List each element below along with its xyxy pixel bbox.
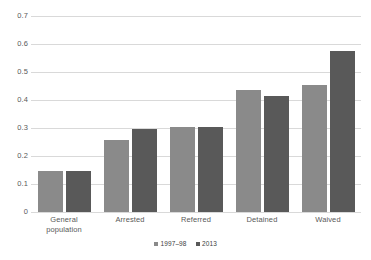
bar <box>170 127 195 212</box>
legend-label: 1997–98 <box>161 241 187 248</box>
bar <box>302 85 327 212</box>
x-axis-category-label: Waived <box>295 215 361 235</box>
y-axis-tick-label: 0.3 <box>2 124 28 132</box>
gridline <box>31 212 361 213</box>
y-axis-tick-label: 0 <box>2 208 28 216</box>
x-axis-category-label: Arrested <box>97 215 163 235</box>
legend-item[interactable]: 1997–98 <box>154 241 187 248</box>
bar <box>66 171 91 212</box>
bar <box>198 127 223 212</box>
bar-chart: 00.10.20.30.40.50.60.7 General populatio… <box>0 0 371 260</box>
legend-swatch-icon <box>196 242 200 246</box>
y-axis-tick-label: 0.4 <box>2 96 28 104</box>
bar <box>104 140 129 212</box>
y-axis-tick-label: 0.6 <box>2 40 28 48</box>
x-axis-category-label: Referred <box>163 215 229 235</box>
bar-group <box>97 16 163 212</box>
bar-group <box>163 16 229 212</box>
legend-item[interactable]: 2013 <box>196 241 217 248</box>
y-axis-tick-label: 0.2 <box>2 152 28 160</box>
bar-group <box>229 16 295 212</box>
bar <box>236 90 261 212</box>
legend-swatch-icon <box>154 242 158 246</box>
bar-groups <box>31 16 361 212</box>
x-axis-category-label: Detained <box>229 215 295 235</box>
y-axis-tick-label: 0.7 <box>2 12 28 20</box>
x-axis-category-label: General population <box>31 215 97 235</box>
bar <box>132 129 157 212</box>
plot-area <box>31 16 361 212</box>
y-axis-tick-label: 0.1 <box>2 180 28 188</box>
legend-label: 2013 <box>202 241 217 248</box>
bar-group <box>295 16 361 212</box>
bar <box>330 51 355 212</box>
x-axis-category-labels: General populationArrestedReferredDetain… <box>31 215 361 235</box>
chart-legend: 1997–982013 <box>0 241 371 248</box>
y-axis-tick-label: 0.5 <box>2 68 28 76</box>
bar <box>264 96 289 212</box>
bar-group <box>31 16 97 212</box>
bar <box>38 171 63 212</box>
